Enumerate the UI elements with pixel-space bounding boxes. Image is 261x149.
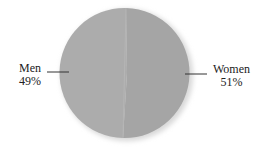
slice-women — [123, 8, 190, 138]
men-label-pct: 49% — [19, 75, 41, 88]
women-label-pct: 51% — [213, 76, 250, 89]
slice-men — [59, 8, 127, 138]
men-label: Men 49% — [19, 62, 41, 88]
women-label: Women 51% — [213, 63, 250, 89]
